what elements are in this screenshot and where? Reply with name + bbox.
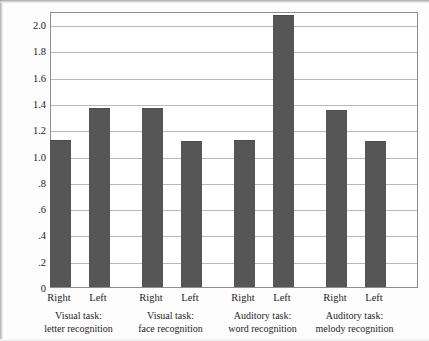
bar <box>234 140 255 287</box>
gridline <box>51 105 417 106</box>
x-axis-side-label: Left <box>181 292 199 303</box>
x-axis-group-label-line1: Auditory task: <box>326 310 384 321</box>
gridline <box>51 79 417 80</box>
bar <box>365 141 386 287</box>
figure-container: Performance ratio 0.2.4.6.81.01.21.41.61… <box>0 0 429 341</box>
y-axis-tick-label: 1.8 <box>20 46 46 57</box>
bar <box>273 15 294 287</box>
y-axis-tick-label: 0 <box>20 283 46 294</box>
bar <box>50 140 71 287</box>
x-axis-group-labels: Visual task:letter recognitionVisual tas… <box>50 309 418 339</box>
gridline <box>51 52 417 53</box>
x-axis-group-label: Auditory task:word recognition <box>228 309 297 335</box>
x-axis-group-label: Visual task:face recognition <box>138 309 203 335</box>
x-axis-group-label-line2: letter recognition <box>44 322 113 335</box>
x-axis-side-label: Left <box>365 292 383 303</box>
y-axis-tick-label: 1.4 <box>20 99 46 110</box>
x-axis-side-label: Left <box>89 292 107 303</box>
x-axis-group-label: Visual task:letter recognition <box>44 309 113 335</box>
x-axis-side-label: Right <box>139 292 162 303</box>
y-axis-tick-label: 2.0 <box>20 20 46 31</box>
x-axis-group-label-line1: Auditory task: <box>234 310 292 321</box>
scan-edge-top <box>0 0 429 3</box>
x-axis-group-label-line1: Visual task: <box>55 310 102 321</box>
x-axis-group-label-line1: Visual task: <box>147 310 194 321</box>
x-axis-side-label: Right <box>231 292 254 303</box>
y-axis-tick-labels: 0.2.4.6.81.01.21.41.61.82.0 <box>18 12 46 288</box>
y-axis-tick-label: .6 <box>20 204 46 215</box>
y-axis-tick-label: .8 <box>20 177 46 188</box>
x-axis-side-label: Right <box>323 292 346 303</box>
y-axis-tick-label: 1.6 <box>20 72 46 83</box>
bar <box>89 108 110 287</box>
x-axis-side-label: Right <box>47 292 70 303</box>
bar <box>326 110 347 287</box>
x-axis-group-label-line2: melody recognition <box>315 322 393 335</box>
gridline <box>51 26 417 27</box>
y-axis-tick-label: .4 <box>20 230 46 241</box>
y-axis-tick-label: 1.2 <box>20 125 46 136</box>
scan-edge-left <box>0 0 3 341</box>
y-axis-tick-label: .2 <box>20 256 46 267</box>
x-axis-group-label-line2: word recognition <box>228 322 297 335</box>
bar <box>181 141 202 287</box>
plot-area <box>50 12 418 288</box>
bar <box>142 108 163 287</box>
y-axis-tick-label: 1.0 <box>20 151 46 162</box>
x-axis-side-label: Left <box>273 292 291 303</box>
x-axis-group-label: Auditory task:melody recognition <box>315 309 393 335</box>
x-axis-group-label-line2: face recognition <box>138 322 203 335</box>
x-axis-side-labels: RightLeftRightLeftRightLeftRightLeft <box>50 292 418 306</box>
